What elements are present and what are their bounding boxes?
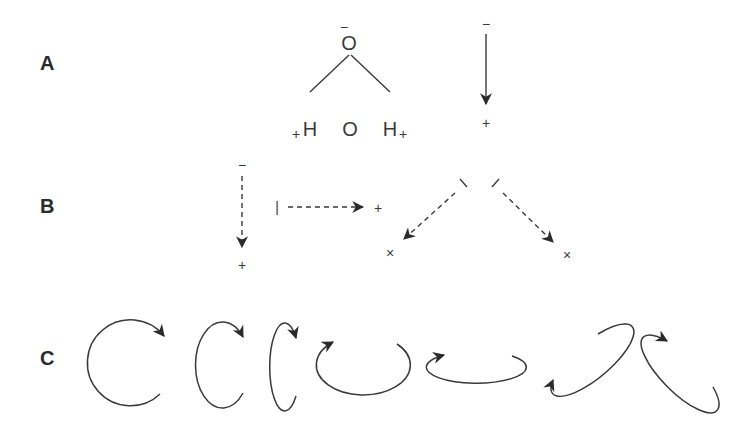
water-molecule: − O + H O H + — [292, 19, 407, 142]
rotation-arrow-circle — [87, 320, 164, 406]
dashed-arrow-right: | + — [275, 199, 382, 216]
arrow-end-cross: × — [563, 247, 571, 263]
start-tick — [492, 179, 499, 187]
rotation-arrow-tilted-left — [641, 335, 719, 413]
arrow-start-minus: − — [482, 16, 490, 32]
arrow-start-minus: − — [238, 157, 246, 173]
rotation-arrow-flat-ellipse — [426, 355, 526, 383]
dashed-line — [503, 193, 553, 242]
rotation-arrow-wide-ellipse — [316, 342, 410, 395]
rotation-arrow-tall-ellipse — [196, 322, 243, 408]
arrow-end-plus: + — [238, 257, 246, 273]
figure-canvas: A B C − O + H O H + − + − + | + × × — [0, 0, 752, 427]
arrow-end-plus: + — [374, 200, 382, 216]
panel-label-a: A — [40, 52, 54, 74]
bond-left — [310, 55, 349, 92]
arrow-end-cross: × — [386, 245, 394, 261]
center-oxygen-atom: O — [342, 118, 358, 140]
rotation-arrow-tilted-right — [551, 324, 634, 396]
left-hydrogen-atom: H — [303, 118, 317, 140]
left-hydrogen-charge: + — [292, 126, 300, 142]
right-hydrogen-charge: + — [399, 126, 407, 142]
dashed-arrow-down-right: × — [492, 179, 571, 263]
arrow-end-plus: + — [482, 115, 490, 131]
right-hydrogen-atom: H — [383, 118, 397, 140]
bond-right — [351, 55, 390, 92]
panel-label-c: C — [40, 347, 54, 369]
arrow-start-bar: | — [275, 199, 279, 215]
dashed-arrow-down-left: × — [386, 179, 467, 261]
start-tick — [460, 179, 467, 187]
rotation-arrow-narrow-ellipse — [270, 323, 296, 411]
panel-label-b: B — [40, 195, 54, 217]
dipole-arrow-solid: − + — [482, 16, 490, 131]
top-oxygen-atom: O — [341, 32, 357, 54]
dashed-line — [404, 193, 455, 239]
dashed-arrow-down: − + — [238, 157, 246, 273]
